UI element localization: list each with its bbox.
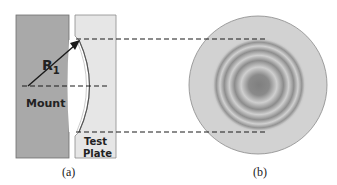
test-plate-label-line2: Plate bbox=[83, 148, 112, 159]
caption-a: (a) bbox=[62, 165, 75, 179]
panel-b: (b) bbox=[189, 16, 327, 179]
mount-label: Mount bbox=[26, 97, 65, 110]
interference-fringes bbox=[212, 38, 306, 132]
test-plate-label-line1: Test bbox=[84, 136, 107, 147]
caption-b: (b) bbox=[253, 165, 267, 179]
interferometry-diagram: R1 Mount Test Plate (a) (b) bbox=[0, 0, 337, 185]
